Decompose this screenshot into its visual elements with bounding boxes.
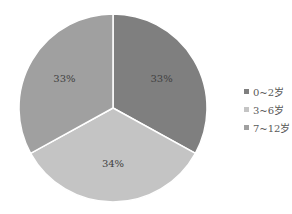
legend-swatch (244, 107, 249, 112)
legend-label: 3~6岁 (253, 102, 284, 117)
slice-label: 33% (150, 73, 172, 84)
slice-label: 33% (53, 73, 75, 84)
legend-item-7-12: 7~12岁 (244, 118, 290, 136)
legend-swatch (244, 125, 249, 130)
slice-label: 34% (102, 158, 124, 169)
legend-item-3-6: 3~6岁 (244, 100, 290, 118)
legend-swatch (244, 89, 249, 94)
pie-slices (19, 14, 207, 202)
legend-item-0-2: 0~2岁 (244, 82, 290, 100)
legend-label: 7~12岁 (253, 120, 290, 135)
legend-label: 0~2岁 (253, 84, 284, 99)
legend: 0~2岁 3~6岁 7~12岁 (244, 82, 290, 136)
